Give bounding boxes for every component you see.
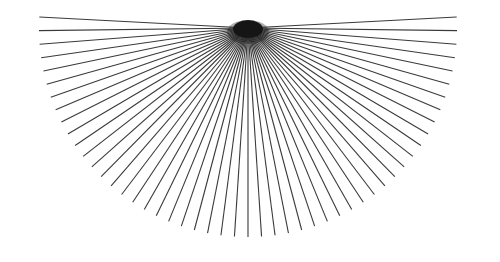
figure-canvas (0, 0, 500, 262)
radial-fan-figure (0, 0, 500, 262)
